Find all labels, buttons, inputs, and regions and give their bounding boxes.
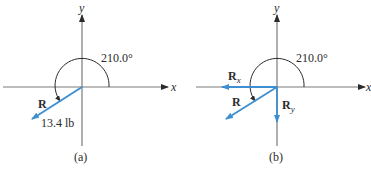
panel-caption: (a) xyxy=(74,150,87,164)
x-component-label: Rx xyxy=(228,69,241,85)
angle-label: 210.0° xyxy=(101,51,133,65)
x-axis-label: x xyxy=(365,80,371,94)
vector-label: R xyxy=(38,97,47,111)
panel-caption: (b) xyxy=(269,150,283,164)
angle-label: 210.0° xyxy=(296,51,328,65)
vector-diagram: y x 210.0° R 13.4 lb (a) y x 210.0° Rx R… xyxy=(0,0,371,174)
x-axis-label: x xyxy=(170,80,177,94)
y-axis-label: y xyxy=(78,1,85,15)
y-component-label: Ry xyxy=(282,98,295,114)
panel-a: y x 210.0° R 13.4 lb (a) xyxy=(3,1,177,164)
panel-b: y x 210.0° Rx R Ry (b) xyxy=(196,1,371,164)
vector-label: R xyxy=(232,95,241,109)
magnitude-label: 13.4 lb xyxy=(41,116,74,130)
y-axis-label: y xyxy=(273,1,280,15)
